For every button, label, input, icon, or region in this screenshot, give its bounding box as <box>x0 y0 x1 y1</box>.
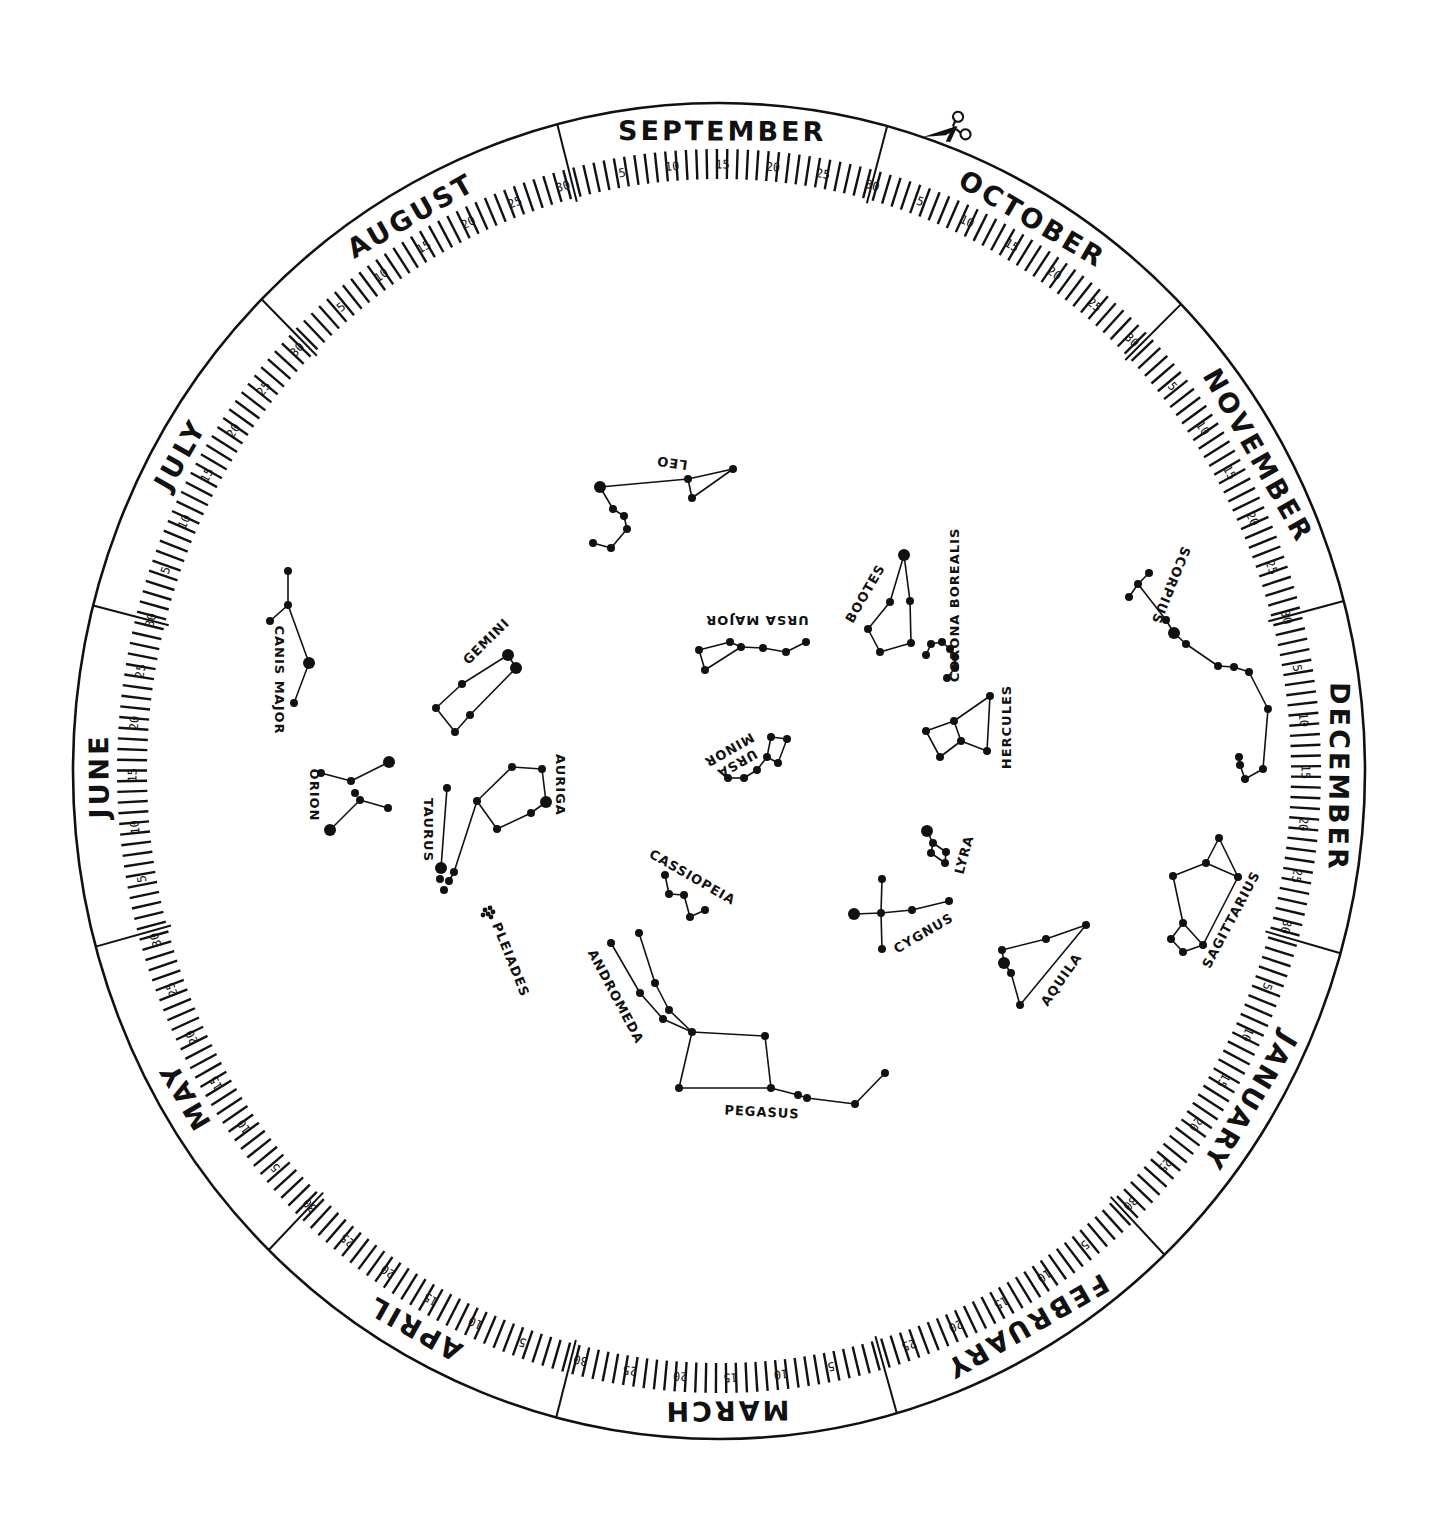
constellation-line <box>1249 672 1268 709</box>
day-tick <box>119 717 149 720</box>
day-tick <box>675 151 677 181</box>
day-tick <box>834 162 840 191</box>
constellation-line <box>655 983 669 1010</box>
constellation-line <box>454 801 477 872</box>
star <box>1230 663 1238 671</box>
star <box>620 512 628 520</box>
day-number: 15 <box>1220 463 1239 483</box>
constellation-line <box>679 1032 692 1088</box>
day-tick <box>696 149 697 179</box>
star <box>1007 969 1015 977</box>
month-label: JANUARY <box>1196 1025 1304 1176</box>
day-tick <box>190 1054 216 1068</box>
star <box>761 1032 769 1040</box>
day-tick <box>973 1302 986 1329</box>
star <box>688 1028 696 1036</box>
day-tick <box>1285 681 1315 685</box>
day-tick <box>804 1356 808 1386</box>
day-tick <box>796 155 800 185</box>
star <box>942 848 950 856</box>
star <box>432 704 440 712</box>
star <box>1169 872 1177 880</box>
constellation-line <box>987 696 990 751</box>
constellation-label: PLEIADES <box>489 920 532 999</box>
star <box>1134 580 1142 588</box>
month-label: SEPTEMBER <box>618 115 826 147</box>
star <box>763 753 771 761</box>
day-tick <box>853 1347 860 1376</box>
day-tick <box>1245 1004 1273 1016</box>
constellation-line <box>360 800 388 808</box>
constellation-label: URSAMINOR <box>702 730 765 784</box>
month-february: 510152025FEBRUARY <box>881 1197 1164 1386</box>
day-tick <box>119 821 149 824</box>
star <box>886 598 894 606</box>
constellation-line <box>1173 876 1183 923</box>
star <box>540 796 552 808</box>
constellation-line <box>699 642 730 650</box>
constellation-line <box>1186 644 1218 666</box>
day-tick <box>503 1324 514 1352</box>
day-tick <box>494 1320 505 1348</box>
star <box>927 640 935 648</box>
day-tick <box>1276 908 1305 915</box>
day-tick <box>1262 957 1290 966</box>
constellation-label: PEGASUS <box>724 1103 800 1122</box>
day-tick <box>1259 966 1287 976</box>
day-tick <box>862 1344 870 1373</box>
star <box>922 651 930 659</box>
star <box>466 711 474 719</box>
star <box>436 875 444 883</box>
constellation-line <box>640 993 663 1019</box>
day-tick <box>543 176 552 205</box>
star <box>908 906 916 914</box>
day-tick <box>707 149 708 179</box>
day-tick <box>1286 848 1316 852</box>
day-tick <box>755 1362 757 1392</box>
day-tick <box>613 1354 618 1384</box>
day-tick <box>583 165 590 194</box>
day-tick <box>1290 797 1320 798</box>
day-tick <box>117 760 147 761</box>
star <box>1167 935 1175 943</box>
star <box>1264 705 1272 713</box>
constellation-line <box>1002 939 1046 950</box>
star <box>491 910 496 915</box>
day-tick <box>655 153 658 183</box>
star <box>623 525 631 533</box>
star <box>898 549 910 561</box>
constellation-line <box>881 879 882 913</box>
star <box>1235 753 1243 761</box>
day-tick <box>160 541 188 552</box>
star <box>538 765 546 773</box>
day-tick <box>1278 898 1307 904</box>
day-tick <box>1291 755 1321 756</box>
day-tick <box>747 150 748 180</box>
day-tick <box>181 492 208 505</box>
star <box>907 639 915 647</box>
star <box>1168 627 1180 639</box>
constellation-gemini: GEMINI <box>432 615 522 736</box>
day-tick <box>1290 745 1320 746</box>
constellation-label: URSA MAJOR <box>705 613 808 628</box>
month-october: 51015202530OCTOBER <box>867 126 1146 354</box>
star <box>921 825 933 837</box>
day-tick <box>1228 488 1255 502</box>
constellation-line <box>351 762 389 781</box>
day-number: 20 <box>459 213 478 232</box>
star <box>688 494 696 502</box>
constellation-ursa-minor: URSAMINOR <box>702 730 791 784</box>
day-tick <box>552 1340 560 1369</box>
day-number: 20 <box>183 1028 202 1047</box>
day-tick <box>121 842 151 846</box>
constellation-label: LYRA <box>952 834 977 876</box>
star <box>383 756 395 768</box>
star <box>737 643 745 651</box>
star <box>675 1084 683 1092</box>
constellation-line <box>926 721 954 731</box>
star <box>686 913 694 921</box>
day-tick <box>130 643 159 649</box>
star <box>881 1069 889 1077</box>
star <box>284 567 292 575</box>
day-tick <box>805 156 810 186</box>
